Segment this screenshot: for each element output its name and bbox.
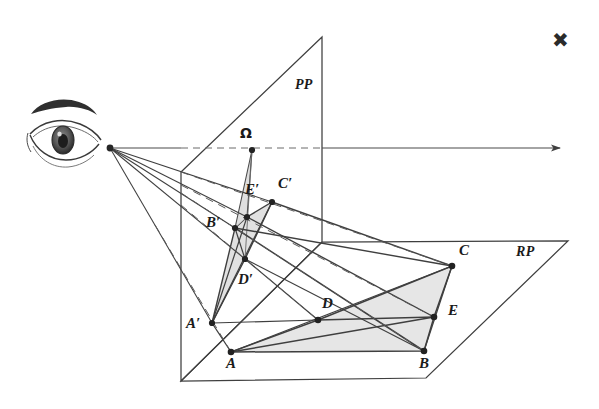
edge-Bp-C [235,228,452,266]
point-marker-Cp [269,199,275,205]
diagram-canvas: PP RP Ω A′ B′ C′ D′ E′ A B C D E ✖ [0,0,599,409]
label-e-prime: E′ [245,182,259,197]
point-marker-B [421,348,428,355]
perspective-projection-figure [0,0,599,409]
label-d: D [322,296,333,311]
label-pp: PP [295,78,313,92]
eyebrow-shape [31,99,97,115]
label-b-prime: B′ [206,215,220,230]
edge-Ap-D [212,320,318,323]
label-d-prime: D′ [238,272,253,287]
point-marker-Ap [209,320,215,326]
point-marker-C [449,263,456,270]
label-e: E [448,303,458,318]
point-marker-Ep [244,214,250,220]
point-marker-E [431,314,438,321]
point-marker-Bp [232,225,238,231]
point-marker-Omega [249,147,255,153]
x-mark-icon: ✖ [552,30,569,50]
label-a-prime: A′ [186,316,200,331]
label-rp: RP [516,245,535,259]
station-point [107,145,114,152]
point-marker-D [315,317,322,324]
eye-icon [27,99,113,167]
label-b: B [419,356,429,371]
label-c-prime: C′ [278,176,292,191]
point-marker-Dp [242,256,248,262]
label-c: C [459,243,469,258]
label-a: A [226,356,236,371]
label-omega: Ω [240,126,252,140]
eye-highlight [57,131,61,136]
